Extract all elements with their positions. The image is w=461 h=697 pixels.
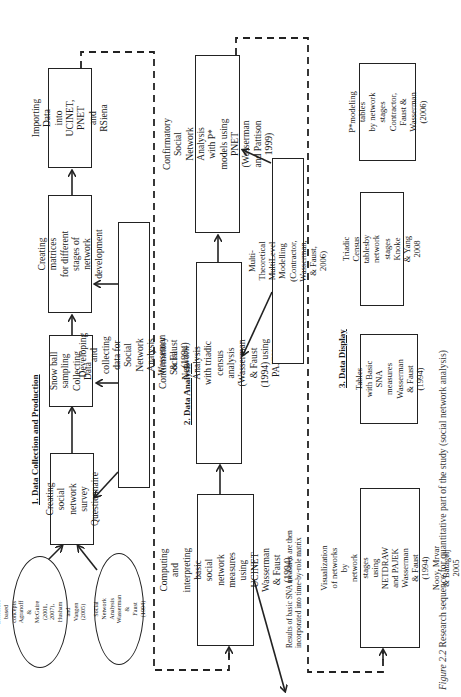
box-visualization: Visualization of networks by network sta… bbox=[360, 488, 420, 648]
box-label: Computing and interpreting basic social … bbox=[158, 548, 294, 593]
section-heading-data-display: 3. Data Display bbox=[337, 329, 347, 388]
ellipse-literature-concepts: Literature based concepts Agranoff & McG… bbox=[12, 556, 68, 668]
box-label: Confirmatory Social Network Analysis wit… bbox=[161, 118, 274, 170]
box-label: Tables with Basic SNA measures Wasserman… bbox=[354, 359, 425, 398]
ellipse-label: Social Network Analysis Wasserman & Faus… bbox=[92, 595, 146, 623]
box-label: Triadic Census tablesby network stages K… bbox=[341, 235, 422, 264]
section-heading-data-collection: 1. Data Collection and Production bbox=[30, 374, 40, 505]
arrow-computing-to-results bbox=[254, 580, 285, 691]
ellipse-sna-wasserman: Social Network Analysis Wasserman & Faus… bbox=[94, 553, 144, 665]
caption-text: Research sequence for quantitative part … bbox=[437, 350, 448, 650]
figure-caption: Figure 2.2 Research sequence for quantit… bbox=[437, 350, 448, 690]
box-label: P*modeling tables by network stages Cont… bbox=[347, 91, 428, 133]
box-computing-basic-measures: Computing and interpreting basic social … bbox=[197, 494, 254, 646]
caption-label: Figure 2.2 bbox=[437, 650, 448, 690]
box-label: Confirmatory Social Network Analysis wit… bbox=[157, 337, 281, 389]
box-label: Creating social network survey Questionn… bbox=[44, 472, 101, 526]
box-pstar-tables: P*modeling tables by network stages Cont… bbox=[359, 63, 416, 161]
box-confirmatory-triadic: Confirmatory Social Network Analysis wit… bbox=[196, 262, 242, 464]
box-survey-questionnaire: Creating social network survey Questionn… bbox=[50, 453, 94, 545]
box-label: Creating matrices for different stages o… bbox=[36, 229, 104, 279]
ellipse-label: Literature based concepts Agranoff & McG… bbox=[0, 599, 87, 626]
box-creating-matrices: Creating matrices for different stages o… bbox=[48, 195, 92, 313]
box-label: Multi-Theoretical MultiLevel Modelling (… bbox=[247, 240, 328, 282]
box-label: Importing Data into UCINET, PNET and RSi… bbox=[30, 99, 109, 137]
arrow-sna-to-survey bbox=[78, 546, 97, 570]
box-importing-data: Importing Data into UCINET, PNET and RSi… bbox=[48, 68, 92, 168]
box-basic-sna-tables: Tables with Basic SNA measures Wasserman… bbox=[360, 334, 418, 424]
results-note: Results of basic SNA measures are then i… bbox=[286, 530, 304, 648]
box-confirmatory-pstar: Confirmatory Social Network Analysis wit… bbox=[195, 55, 240, 233]
box-developing-data: Developing and collecting data for Socia… bbox=[118, 222, 150, 488]
box-triadic-census-tables: Triadic Census tablesby network stages K… bbox=[360, 192, 404, 306]
box-multitheoretical-modelling: Multi-Theoretical MultiLevel Modelling (… bbox=[272, 158, 304, 364]
